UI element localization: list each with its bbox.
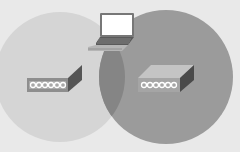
wireless-roaming-diagram	[0, 0, 240, 152]
diagram-canvas	[0, 0, 240, 152]
